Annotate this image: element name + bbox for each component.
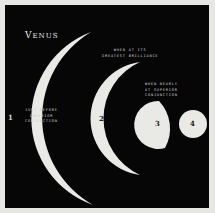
phase-3-caption: WHEN NEARLY AT SUPERIOR CONJUNCTION	[145, 82, 178, 99]
venus-phases-diagram: VENUS JUST BEFORE INFERIOR CONJUNCTION W…	[5, 5, 209, 208]
phase-1-number: 1	[8, 113, 13, 122]
phase-1-caption: JUST BEFORE INFERIOR CONJUNCTION	[25, 108, 58, 125]
phase-2-caption: WHEN AT ITS GREATEST BRILLIANCE	[102, 48, 158, 59]
phase-4-number: 4	[190, 119, 195, 128]
phase-3-gibbous	[134, 101, 170, 149]
diagram-title: VENUS	[25, 30, 58, 40]
phase-2-number: 2	[99, 114, 104, 123]
phase-3-number: 3	[155, 119, 160, 128]
phase-2-crescent	[91, 62, 140, 175]
